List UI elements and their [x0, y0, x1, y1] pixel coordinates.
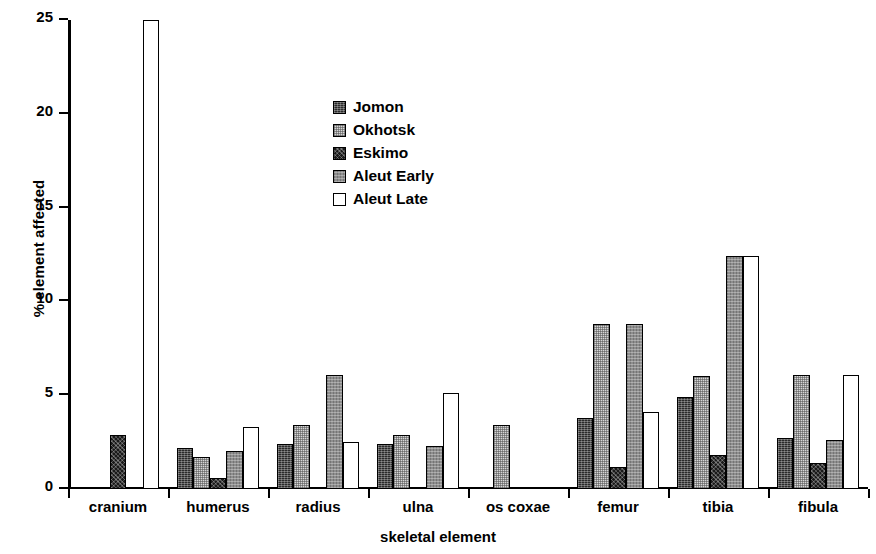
- y-tick-label: 15: [36, 196, 53, 213]
- x-tick: [868, 489, 870, 498]
- bar-ulna-aleut-late: [443, 393, 460, 489]
- bar-group: [777, 20, 860, 489]
- bar-group: [177, 20, 260, 489]
- bar-fibula-aleut-late: [843, 375, 860, 489]
- plot-area: 0510152025: [68, 20, 868, 489]
- x-tick: [668, 489, 670, 498]
- x-tick: [468, 489, 470, 498]
- x-tick-label-radius: radius: [268, 498, 368, 515]
- legend-swatch-icon: [333, 170, 346, 183]
- bar-group: [677, 20, 760, 489]
- y-tick: 10: [59, 299, 68, 301]
- bar-tibia-eskimo: [710, 455, 727, 489]
- bar-ulna-jomon: [377, 444, 394, 489]
- bar-cranium-aleut-late: [143, 20, 160, 489]
- bar-chart: % element affected 0510152025 craniumhum…: [0, 0, 876, 554]
- legend-swatch-icon: [333, 193, 346, 206]
- bar-humerus-aleut-late: [243, 427, 260, 489]
- bar-group: [77, 20, 160, 489]
- bar-ulna-aleut-early: [426, 446, 443, 489]
- y-tick-label: 5: [45, 383, 53, 400]
- x-tick-label-os-coxae: os coxae: [468, 498, 568, 515]
- legend-item-aleut-late: Aleut Late: [333, 188, 434, 210]
- x-tick: [168, 489, 170, 498]
- x-tick-label-fibula: fibula: [768, 498, 868, 515]
- y-tick: 25: [59, 18, 68, 20]
- bar-femur-aleut-late: [643, 412, 660, 489]
- y-tick: 0: [59, 487, 68, 489]
- x-tick: [68, 489, 70, 498]
- legend-item-okhotsk: Okhotsk: [333, 119, 434, 141]
- bar-tibia-jomon: [677, 397, 694, 489]
- bar-group: [277, 20, 360, 489]
- bar-humerus-aleut-early: [226, 451, 243, 489]
- legend-label: Jomon: [353, 98, 404, 116]
- y-tick-label: 0: [45, 477, 53, 494]
- bar-fibula-jomon: [777, 438, 794, 489]
- bar-femur-okhotsk: [593, 324, 610, 489]
- y-tick-label: 10: [36, 289, 53, 306]
- x-tick-label-humerus: humerus: [168, 498, 268, 515]
- bar-humerus-jomon: [177, 448, 194, 489]
- y-tick-label: 20: [36, 102, 53, 119]
- legend-label: Aleut Late: [353, 190, 428, 208]
- bar-femur-jomon: [577, 418, 594, 489]
- bar-radius-okhotsk: [293, 425, 310, 489]
- bar-fibula-aleut-early: [826, 440, 843, 489]
- legend-label: Okhotsk: [353, 121, 415, 139]
- legend-swatch-icon: [333, 147, 346, 160]
- legend-swatch-icon: [333, 101, 346, 114]
- bar-fibula-okhotsk: [793, 375, 810, 489]
- bar-radius-jomon: [277, 444, 294, 489]
- x-tick: [768, 489, 770, 498]
- x-tick: [368, 489, 370, 498]
- x-axis-title: skeletal element: [0, 528, 876, 545]
- bar-fibula-eskimo: [810, 463, 827, 489]
- legend: JomonOkhotskEskimoAleut EarlyAleut Late: [333, 96, 434, 211]
- legend-label: Eskimo: [353, 144, 408, 162]
- bar-group: [577, 20, 660, 489]
- x-tick-label-femur: femur: [568, 498, 668, 515]
- bar-tibia-aleut-late: [743, 256, 760, 489]
- bar-radius-aleut-late: [343, 442, 360, 489]
- x-tick-label-cranium: cranium: [68, 498, 168, 515]
- y-axis-title: % element affected: [30, 139, 47, 359]
- y-tick-label: 25: [36, 8, 53, 25]
- bar-femur-eskimo: [610, 467, 627, 490]
- bar-group: [477, 20, 560, 489]
- legend-swatch-icon: [333, 124, 346, 137]
- x-tick-label-tibia: tibia: [668, 498, 768, 515]
- legend-item-eskimo: Eskimo: [333, 142, 434, 164]
- x-tick: [268, 489, 270, 498]
- y-tick: 15: [59, 206, 68, 208]
- bar-humerus-okhotsk: [193, 457, 210, 489]
- legend-label: Aleut Early: [353, 167, 434, 185]
- bar-tibia-okhotsk: [693, 376, 710, 489]
- y-tick: 20: [59, 112, 68, 114]
- bar-group: [377, 20, 460, 489]
- bar-os-coxae-okhotsk: [493, 425, 510, 489]
- bar-cranium-eskimo: [110, 435, 127, 489]
- legend-item-jomon: Jomon: [333, 96, 434, 118]
- x-tick: [568, 489, 570, 498]
- bar-ulna-okhotsk: [393, 435, 410, 489]
- bar-tibia-aleut-early: [726, 256, 743, 489]
- bar-humerus-eskimo: [210, 478, 227, 489]
- y-tick: 5: [59, 393, 68, 395]
- legend-item-aleut-early: Aleut Early: [333, 165, 434, 187]
- y-axis-line: [68, 20, 71, 489]
- bar-femur-aleut-early: [626, 324, 643, 489]
- x-tick-label-ulna: ulna: [368, 498, 468, 515]
- bar-radius-aleut-early: [326, 375, 343, 489]
